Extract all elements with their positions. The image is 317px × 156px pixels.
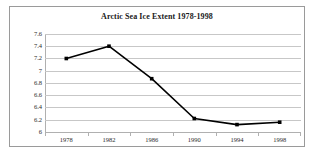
x-axis-tick-mark	[258, 133, 259, 136]
y-axis-tick-label: 6	[16, 129, 42, 136]
data-point-marker	[193, 117, 197, 121]
x-axis-tick-label: 1994	[217, 137, 257, 144]
x-axis-tick-label: 1978	[46, 137, 86, 144]
x-axis-tick-mark	[173, 133, 174, 136]
series-polyline	[66, 46, 279, 124]
x-axis-tick-mark	[130, 133, 131, 136]
y-axis-tick-label: 6.6	[16, 92, 42, 99]
y-axis-tick-label: 6.4	[16, 104, 42, 111]
x-axis-tick-mark	[216, 133, 217, 136]
x-axis-tick-label: 1990	[174, 137, 214, 144]
data-point-marker	[150, 77, 154, 81]
plot-area	[45, 34, 301, 132]
y-axis-tick-label: 7.6	[16, 31, 42, 38]
data-series-line	[45, 34, 301, 132]
y-axis-tick-label: 7.2	[16, 55, 42, 62]
x-axis-tick-label: 1986	[132, 137, 172, 144]
x-axis-tick-label: 1998	[260, 137, 300, 144]
data-point-marker	[235, 123, 239, 127]
chart-container: Arctic Sea Ice Extent 1978-1998 7.67.47.…	[9, 6, 305, 147]
x-axis-tick-mark	[45, 133, 46, 136]
x-axis-tick-mark	[88, 133, 89, 136]
x-axis-tick-mark	[300, 133, 301, 136]
data-point-marker	[107, 44, 111, 48]
y-axis-tick-label: 6.8	[16, 80, 42, 87]
y-axis-tick-label: 7.4	[16, 43, 42, 50]
y-axis-tick-labels: 7.67.47.276.86.66.46.26	[13, 34, 42, 132]
x-axis-tick-labels: 197819821986199019941998	[45, 137, 301, 149]
x-axis-tick-label: 1982	[89, 137, 129, 144]
chart-title: Arctic Sea Ice Extent 1978-1998	[10, 12, 304, 21]
y-axis-tick-label: 6.2	[16, 117, 42, 124]
data-point-marker	[278, 120, 282, 124]
data-point-marker	[65, 57, 69, 61]
y-axis-tick-label: 7	[16, 68, 42, 75]
